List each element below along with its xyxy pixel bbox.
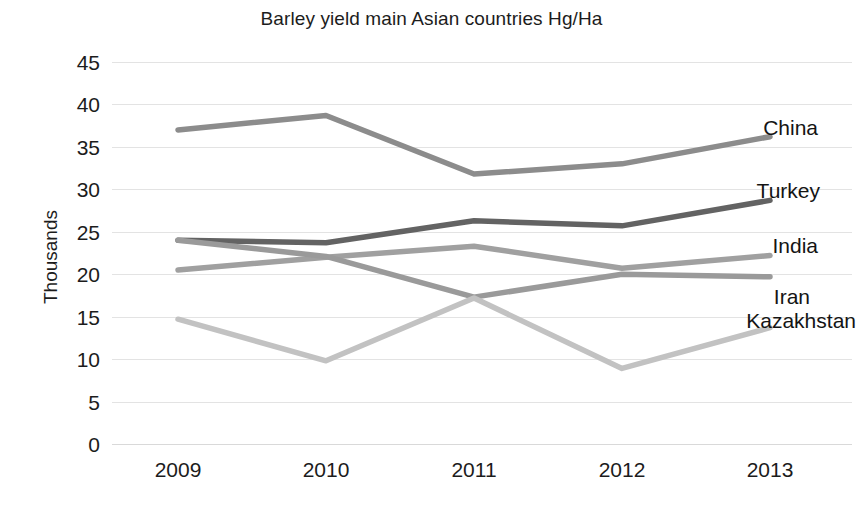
x-tick-label-2012: 2012 (599, 458, 646, 482)
x-tick-label-2011: 2011 (451, 458, 496, 482)
y-tick-label-15: 15 (40, 306, 100, 327)
series-label-kazakhstan: Kazakhstan (746, 310, 856, 331)
y-tick-label-45: 45 (40, 52, 100, 73)
y-tick-label-0: 0 (40, 434, 100, 455)
series-label-iran: Iran (774, 286, 810, 307)
x-tick-label-2013: 2013 (747, 458, 794, 482)
series-label-turkey: Turkey (757, 180, 820, 201)
chart-title: Barley yield main Asian countries Hg/Ha (0, 8, 863, 30)
series-label-india: India (772, 235, 818, 256)
y-tick-label-20: 20 (40, 264, 100, 285)
y-tick-label-5: 5 (40, 391, 100, 412)
chart-container: Barley yield main Asian countries Hg/Ha … (0, 0, 863, 513)
series-line-kazakhstan (178, 298, 770, 368)
x-tick-label-2010: 2010 (303, 458, 350, 482)
series-line-china (178, 115, 770, 174)
y-tick-label-30: 30 (40, 179, 100, 200)
y-tick-label-40: 40 (40, 94, 100, 115)
gridline-0 (112, 444, 852, 445)
y-tick-label-25: 25 (40, 221, 100, 242)
plot-area: 454035302520151050 20092010201120122013 … (112, 62, 852, 444)
y-tick-label-10: 10 (40, 349, 100, 370)
series-label-china: China (763, 117, 818, 138)
x-tick-label-2009: 2009 (155, 458, 202, 482)
series-line-turkey (178, 200, 770, 242)
series-lines (112, 62, 852, 444)
y-tick-label-35: 35 (40, 136, 100, 157)
